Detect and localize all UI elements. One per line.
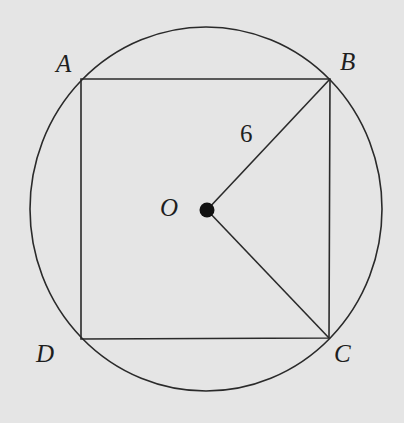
label-radius-length: 6 [240,120,253,147]
segment-ob [207,79,330,210]
label-vertex-c: C [334,340,351,367]
label-vertex-d: D [35,340,54,367]
center-point-o [200,203,215,218]
geometry-diagram: A B C D O 6 [0,0,404,423]
segment-oc [207,210,329,338]
label-vertex-a: A [54,50,72,77]
label-center-o: O [160,194,178,221]
label-vertex-b: B [340,48,355,75]
